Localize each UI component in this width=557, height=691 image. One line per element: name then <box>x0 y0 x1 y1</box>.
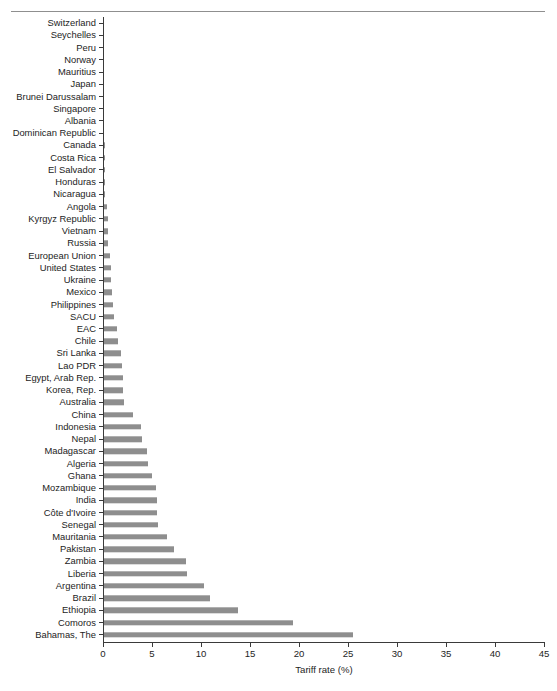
bar <box>104 351 121 356</box>
y-axis-tick <box>99 341 103 342</box>
bar-row: Indonesia <box>103 421 544 433</box>
category-label: Peru <box>76 43 96 53</box>
y-axis-tick <box>99 231 103 232</box>
y-axis-tick <box>99 35 103 36</box>
bar-row: Mauritius <box>103 66 544 78</box>
category-label: Egypt, Arab Rep. <box>25 373 96 383</box>
bar-row: European Union <box>103 249 544 261</box>
bar <box>104 571 187 576</box>
bar-row: Singapore <box>103 103 544 115</box>
bar-row: Russia <box>103 237 544 249</box>
y-axis-tick <box>99 59 103 60</box>
category-label: Canada <box>63 140 96 150</box>
category-label: Mauritania <box>52 532 96 542</box>
bar-row: China <box>103 409 544 421</box>
y-axis-tick <box>99 280 103 281</box>
category-label: Nepal <box>72 434 97 444</box>
bar-row: Lao PDR <box>103 360 544 372</box>
x-axis-tick <box>446 642 447 647</box>
category-label: Nicaragua <box>53 189 96 199</box>
y-axis-tick <box>99 402 103 403</box>
y-axis-tick <box>99 328 103 329</box>
y-axis-tick <box>99 390 103 391</box>
category-label: China <box>72 410 97 420</box>
bar-row: Algeria <box>103 457 544 469</box>
y-axis-tick <box>99 182 103 183</box>
y-axis-tick <box>99 304 103 305</box>
x-axis-tick <box>397 642 398 647</box>
bar-row: Nepal <box>103 433 544 445</box>
bar <box>104 253 110 258</box>
bar-row: Vietnam <box>103 225 544 237</box>
y-axis-tick <box>99 598 103 599</box>
category-label: Singapore <box>53 104 96 114</box>
y-axis-tick <box>99 157 103 158</box>
bar-row: Egypt, Arab Rep. <box>103 372 544 384</box>
x-axis-tick-label: 30 <box>392 648 403 659</box>
bar <box>104 547 174 552</box>
category-label: European Union <box>28 251 96 261</box>
category-label: Ghana <box>68 471 96 481</box>
bar <box>104 595 210 600</box>
bar <box>104 339 118 344</box>
bar <box>104 290 112 295</box>
bar <box>104 387 123 392</box>
y-axis-tick <box>99 84 103 85</box>
category-label: Mauritius <box>58 67 96 77</box>
bar <box>104 400 124 405</box>
category-label: Liberia <box>68 569 96 579</box>
x-axis-tick <box>103 642 104 647</box>
bar <box>104 302 113 307</box>
bar-row: EAC <box>103 323 544 335</box>
y-axis-tick <box>99 267 103 268</box>
bar-row: United States <box>103 262 544 274</box>
y-axis-tick <box>99 634 103 635</box>
category-label: EAC <box>77 324 96 334</box>
x-axis-tick <box>152 642 153 647</box>
y-axis-tick <box>99 218 103 219</box>
bar-row: El Salvador <box>103 164 544 176</box>
category-label: Ethiopia <box>62 605 96 615</box>
chart-page: SwitzerlandSeychellesPeruNorwayMauritius… <box>0 0 557 691</box>
x-axis-tick <box>495 642 496 647</box>
category-label: Mozambique <box>42 483 96 493</box>
category-label: Norway <box>64 55 96 65</box>
plot-area: SwitzerlandSeychellesPeruNorwayMauritius… <box>103 17 544 641</box>
bar-row: Mozambique <box>103 482 544 494</box>
bar-row: Brazil <box>103 592 544 604</box>
category-label: Brazil <box>73 593 96 603</box>
bar <box>104 449 147 454</box>
y-axis-tick <box>99 108 103 109</box>
category-label: Vietnam <box>62 226 96 236</box>
bar-row: Philippines <box>103 298 544 310</box>
bar <box>104 363 122 368</box>
y-axis-tick <box>99 524 103 525</box>
category-label: Indonesia <box>55 422 96 432</box>
y-axis-tick <box>99 439 103 440</box>
x-axis-tick-label: 40 <box>490 648 501 659</box>
bar-row: India <box>103 494 544 506</box>
bar-row: Albania <box>103 115 544 127</box>
y-axis-tick <box>99 475 103 476</box>
y-axis-tick <box>99 255 103 256</box>
y-axis-tick <box>99 316 103 317</box>
bar <box>104 375 123 380</box>
category-label: United States <box>40 263 96 273</box>
category-label: SACU <box>70 312 96 322</box>
y-axis-tick <box>99 120 103 121</box>
bar <box>104 436 142 441</box>
category-label: Senegal <box>62 520 96 530</box>
bar-row: Comoros <box>103 617 544 629</box>
y-axis-tick <box>99 377 103 378</box>
x-axis-area: Tariff rate (%) 051015202530354045 <box>103 642 544 682</box>
x-axis-tick-label: 25 <box>343 648 354 659</box>
x-axis-tick-label: 45 <box>539 648 550 659</box>
y-axis-tick <box>99 536 103 537</box>
bar-row: Ethiopia <box>103 604 544 616</box>
x-axis-tick <box>201 642 202 647</box>
bar <box>104 534 167 539</box>
bar-row: Brunei Darussalam <box>103 90 544 102</box>
category-label: Kyrgyz Republic <box>28 214 96 224</box>
bar <box>104 192 105 197</box>
bar <box>104 559 186 564</box>
